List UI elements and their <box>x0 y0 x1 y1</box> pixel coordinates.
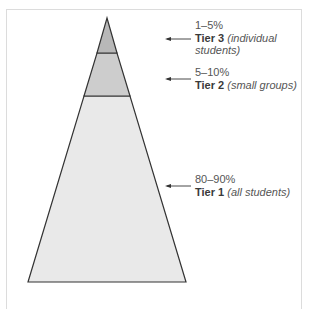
tier-2-segment <box>84 53 130 96</box>
tier-2-percent: 5–10% <box>195 66 297 79</box>
tier-1-percent: 80–90% <box>195 173 290 186</box>
tier-2-name: Tier 2 <box>195 79 224 91</box>
tier-3-label: 1–5% Tier 3 (individual students) <box>195 19 277 57</box>
tier-3-percent: 1–5% <box>195 19 277 32</box>
arrow-tier-2 <box>165 77 191 81</box>
tier-1-desc: (all students) <box>227 186 290 198</box>
tier-2-label: 5–10% Tier 2 (small groups) <box>195 66 297 91</box>
tier-3-name: Tier 3 <box>195 32 224 44</box>
arrow-tier-3 <box>165 37 191 41</box>
arrow-tier-1 <box>165 184 191 188</box>
tier-3-desc-line2: students) <box>195 44 240 56</box>
tier-3-desc-line1: (individual <box>227 32 277 44</box>
tier-1-segment <box>28 96 186 282</box>
tier-1-label: 80–90% Tier 1 (all students) <box>195 173 290 198</box>
tier-3-segment <box>97 18 117 53</box>
tier-1-name: Tier 1 <box>195 186 224 198</box>
tier-2-desc: (small groups) <box>227 79 297 91</box>
